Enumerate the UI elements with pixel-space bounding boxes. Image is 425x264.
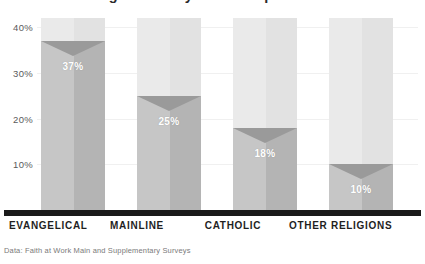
ytick-label-40: 40%: [0, 22, 33, 33]
bar-value-catholic: 18%: [233, 148, 297, 159]
xtick-label-mainline: MAINLINE: [105, 220, 169, 231]
axis-baseline: [4, 210, 421, 216]
bar-wedge-evangelical: [41, 41, 105, 56]
bar-evangelical[interactable]: 37%: [41, 18, 105, 210]
bar-wedge-mainline: [137, 96, 201, 111]
bar-fill-catholic: 18%: [233, 128, 297, 210]
ytick-label-10: 10%: [0, 159, 33, 170]
bar-value-evangelical: 37%: [41, 61, 105, 72]
bar-fill-other-religions: 10%: [329, 164, 393, 210]
bar-wedge-other-religions: [329, 164, 393, 179]
source-note: Data: Faith at Work Main and Supplementa…: [4, 246, 191, 255]
xtick-label-evangelical: EVANGELICAL: [9, 220, 73, 231]
ytick-label-20: 20%: [0, 113, 33, 124]
xtick-label-other-religions: OTHER RELIGIONS: [289, 220, 361, 231]
chart-title-cropped: Percentage Who Say Faith Shapes Their Wo…: [0, 0, 425, 6]
bar-wedge-catholic: [233, 128, 297, 143]
xtick-label-catholic: CATHOLIC: [201, 220, 265, 231]
bar-fill-mainline: 25%: [137, 96, 201, 210]
bar-catholic[interactable]: 18%: [233, 18, 297, 210]
ytick-label-30: 30%: [0, 67, 33, 78]
bar-fill-evangelical: 37%: [41, 41, 105, 210]
chart-figure: Percentage Who Say Faith Shapes Their Wo…: [0, 0, 425, 264]
plot-area: 37% 25%: [37, 18, 418, 210]
bar-other-religions[interactable]: 10%: [329, 18, 393, 210]
bar-value-other-religions: 10%: [329, 184, 393, 195]
chart-title-text: Percentage Who Say Faith Shapes Their Wo…: [46, 0, 372, 3]
bar-mainline[interactable]: 25%: [137, 18, 201, 210]
bar-value-mainline: 25%: [137, 116, 201, 127]
